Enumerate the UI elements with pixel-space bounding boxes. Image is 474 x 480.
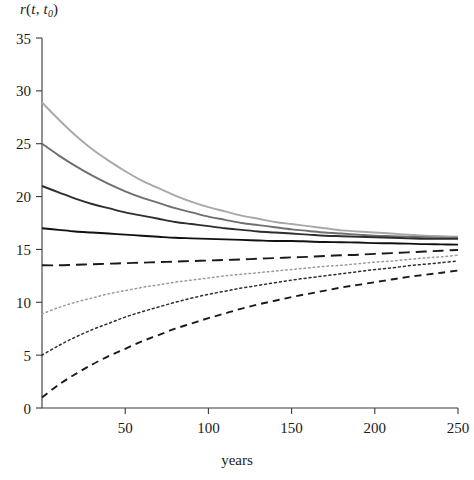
x-tick-label: 150	[280, 420, 303, 436]
y-tick-label: 15	[16, 242, 31, 258]
x-tick-label: 250	[447, 420, 470, 436]
plot-canvas: 0510152025303550100150200250	[0, 0, 474, 480]
series-line-6	[42, 255, 458, 314]
series-line-7	[42, 261, 458, 355]
x-tick-label: 200	[364, 420, 387, 436]
series-line-1	[42, 102, 458, 236]
y-tick-label: 25	[16, 136, 31, 152]
y-tick-label: 10	[16, 295, 31, 311]
y-tick-label: 30	[16, 83, 31, 99]
chart-figure: r(t, t0) 0510152025303550100150200250 ye…	[0, 0, 474, 480]
series-line-5	[42, 250, 458, 265]
axis-spines	[42, 38, 458, 408]
x-axis-label: years	[0, 452, 474, 469]
series-line-8	[42, 271, 458, 398]
y-tick-label: 5	[24, 348, 32, 364]
x-tick-label: 100	[197, 420, 220, 436]
y-tick-label: 35	[16, 31, 31, 47]
series-line-3	[42, 186, 458, 239]
y-tick-label: 0	[24, 401, 32, 417]
y-tick-label: 20	[16, 189, 31, 205]
x-tick-label: 50	[118, 420, 133, 436]
